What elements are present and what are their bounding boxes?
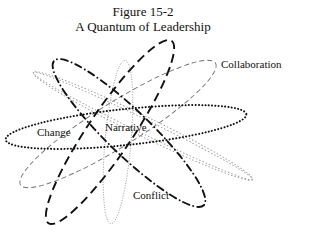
label-narrative: Narrative [105,121,147,133]
label-conflict: Conflict [133,189,169,201]
label-collaboration: Collaboration [221,58,282,70]
label-change: Change [37,126,71,138]
